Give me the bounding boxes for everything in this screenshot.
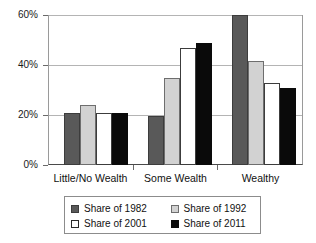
legend-swatch-icon-1982 <box>71 205 79 213</box>
y-tick-label-0: 0% <box>24 160 38 170</box>
y-tick-label-60: 60% <box>18 10 38 20</box>
bar-group-some-wealth <box>133 15 217 165</box>
legend-item-2001[interactable]: Share of 2001 <box>71 218 163 229</box>
legend-label-2011: Share of 2011 <box>184 218 246 229</box>
bar-little-no-wealth-1982[interactable] <box>64 113 80 165</box>
legend-swatch-icon-2011 <box>171 220 179 228</box>
legend-label-2001: Share of 2001 <box>84 218 147 229</box>
legend-row-1: Share of 1982 Share of 1992 <box>71 201 254 216</box>
y-tick-label-20: 20% <box>18 110 38 120</box>
bar-group-wealthy <box>217 15 301 165</box>
bar-some-wealth-2011[interactable] <box>196 43 212 166</box>
x-axis: Little/No Wealth Some Wealth Wealthy <box>48 172 303 188</box>
bar-little-no-wealth-2011[interactable] <box>112 113 128 165</box>
legend: Share of 1982 Share of 1992 Share of 200… <box>64 196 261 234</box>
x-tick-label-little-no-wealth: Little/No Wealth <box>48 172 133 184</box>
legend-label-1982: Share of 1982 <box>84 203 147 214</box>
bar-wealthy-2011[interactable] <box>280 88 296 166</box>
bar-group-little-no-wealth <box>49 15 133 165</box>
bar-some-wealth-1982[interactable] <box>148 116 164 165</box>
bar-some-wealth-1992[interactable] <box>164 78 180 166</box>
x-tick-label-some-wealth: Some Wealth <box>133 172 218 184</box>
bar-wealthy-1982[interactable] <box>232 15 248 165</box>
y-tick-label-40: 40% <box>18 60 38 70</box>
x-axis-separator-2 <box>217 165 218 170</box>
y-tick-mark-0 <box>43 165 48 166</box>
x-tick-label-wealthy: Wealthy <box>218 172 303 184</box>
legend-label-1992: Share of 1992 <box>184 203 247 214</box>
legend-item-1982[interactable]: Share of 1982 <box>71 203 163 214</box>
bar-wealthy-1992[interactable] <box>248 61 264 165</box>
legend-row-2: Share of 2001 Share of 2011 <box>71 216 254 231</box>
x-axis-separator-1 <box>133 165 134 170</box>
bar-wealthy-2001[interactable] <box>264 83 280 166</box>
legend-item-2011[interactable]: Share of 2011 <box>163 218 255 229</box>
bars-layer <box>49 15 302 165</box>
bar-little-no-wealth-2001[interactable] <box>96 113 112 165</box>
legend-swatch-icon-2001 <box>71 220 79 228</box>
y-axis: 60% 40% 20% 0% <box>0 0 48 243</box>
bar-little-no-wealth-1992[interactable] <box>80 105 96 165</box>
legend-swatch-icon-1992 <box>171 205 179 213</box>
bar-some-wealth-2001[interactable] <box>180 48 196 166</box>
legend-item-1992[interactable]: Share of 1992 <box>163 203 255 214</box>
bar-chart: 60% 40% 20% 0% <box>0 0 316 243</box>
